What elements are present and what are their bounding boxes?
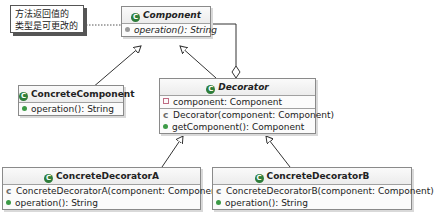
methods-section: operation(): String (19, 103, 123, 115)
class-component[interactable]: CComponent operation(): String (121, 6, 211, 37)
method-row[interactable]: cConcreteDecoratorA(component: Component… (3, 185, 200, 197)
class-header: CDecorator (160, 79, 315, 96)
method-row[interactable]: operation(): String (3, 197, 200, 209)
constructor-icon: c (163, 109, 171, 121)
class-decorator[interactable]: CDecorator component: Component cDecorat… (159, 78, 316, 134)
class-header: CConcreteDecoratorB (213, 168, 411, 185)
public-method-icon (22, 106, 27, 111)
fields-section: component: Component (160, 96, 315, 109)
method-text: getComponent(): Component (172, 122, 304, 132)
generalization-decorator-b (266, 136, 290, 167)
method-row[interactable]: cDecorator(component: Component) (160, 109, 315, 121)
constructor-icon: c (216, 185, 224, 197)
class-icon: C (255, 174, 264, 183)
abstract-class-icon: C (206, 85, 215, 94)
constructor-icon: c (6, 185, 14, 197)
method-row[interactable]: operation(): String (19, 103, 123, 115)
methods-section: operation(): String (122, 24, 210, 36)
method-row[interactable]: operation(): String (122, 24, 210, 36)
method-text: ConcreteDecoratorB(component: Component) (226, 186, 434, 196)
class-header: CConcreteDecoratorA (3, 168, 200, 185)
method-text: operation(): String (134, 25, 217, 35)
method-text: operation(): String (31, 104, 114, 114)
generalization-decorator (180, 46, 216, 78)
class-concrete-decorator-b[interactable]: CConcreteDecoratorB cConcreteDecoratorB(… (212, 167, 412, 210)
method-text: operation(): String (225, 198, 308, 208)
note-line-1: 方法返回值的 (15, 8, 79, 20)
note-comment[interactable]: 方法返回值的 类型是可更改的 (10, 5, 84, 33)
methods-section: cConcreteDecoratorB(component: Component… (213, 185, 411, 209)
method-row[interactable]: operation(): String (213, 197, 411, 209)
public-method-icon (216, 200, 221, 205)
abstract-method-icon (125, 27, 130, 32)
methods-section: cDecorator(component: Component) getComp… (160, 109, 315, 133)
class-name: ConcreteDecoratorB (267, 171, 370, 181)
class-name: ConcreteDecoratorA (56, 171, 159, 181)
method-text: operation(): String (15, 198, 98, 208)
class-concrete-component[interactable]: CConcreteComponent operation(): String (18, 85, 124, 116)
abstract-class-icon: C (131, 13, 140, 22)
class-name: ConcreteComponent (31, 89, 135, 99)
method-text: Decorator(component: Component) (173, 110, 334, 120)
generalization-decorator-a (162, 136, 183, 167)
class-icon: C (44, 174, 53, 183)
private-field-icon (163, 98, 169, 104)
methods-section: cConcreteDecoratorA(component: Component… (3, 185, 200, 209)
method-row[interactable]: cConcreteDecoratorB(component: Component… (213, 185, 411, 197)
class-name: Component (143, 10, 201, 20)
class-header: CComponent (122, 7, 210, 24)
public-method-icon (163, 124, 168, 129)
aggregation-diamond (232, 66, 240, 78)
class-header: CConcreteComponent (19, 86, 123, 103)
method-row[interactable]: getComponent(): Component (160, 121, 315, 133)
class-icon: C (19, 92, 28, 101)
field-text: component: Component (173, 97, 282, 107)
note-line-2: 类型是可更改的 (15, 20, 79, 32)
public-method-icon (6, 200, 11, 205)
method-text: ConcreteDecoratorA(component: Component) (16, 186, 224, 196)
class-concrete-decorator-a[interactable]: CConcreteDecoratorA cConcreteDecoratorA(… (2, 167, 201, 210)
field-row[interactable]: component: Component (160, 96, 315, 108)
class-name: Decorator (218, 82, 269, 92)
generalization-concretecomponent (92, 46, 141, 88)
